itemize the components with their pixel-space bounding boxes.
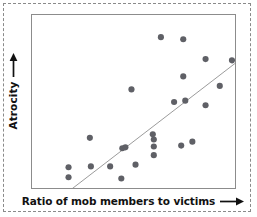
data-point: [151, 152, 157, 158]
x-axis-label-text: Ratio of mob members to victims: [22, 195, 215, 207]
data-point: [202, 102, 208, 108]
data-point: [88, 163, 94, 169]
data-point: [217, 83, 223, 89]
y-axis-label-text: Atrocity: [7, 81, 19, 129]
x-axis-label: Ratio of mob members to victims: [31, 190, 236, 212]
data-point: [180, 73, 186, 79]
data-point: [151, 143, 157, 149]
up-arrow-icon: [8, 52, 19, 78]
data-point: [65, 164, 71, 170]
data-point: [132, 162, 138, 168]
data-point: [180, 36, 186, 42]
data-point: [65, 174, 71, 180]
data-point: [150, 131, 156, 137]
plot-area: [31, 14, 236, 189]
data-point: [158, 34, 164, 40]
right-arrow-icon: [219, 196, 245, 207]
data-points-group: [65, 34, 235, 181]
data-point: [182, 98, 188, 104]
trendline: [69, 63, 235, 188]
data-point: [118, 175, 124, 181]
scatter-chart-figure: Atrocity Ratio of mob members to victims: [0, 0, 257, 217]
data-point: [87, 135, 93, 141]
data-point: [107, 163, 113, 169]
trendline-group: [69, 63, 235, 188]
data-point: [202, 56, 208, 62]
data-point: [229, 57, 235, 63]
data-point: [171, 99, 177, 105]
y-axis-label: Atrocity: [0, 31, 26, 151]
data-point: [178, 143, 184, 149]
data-point: [151, 136, 157, 142]
data-point: [128, 86, 134, 92]
data-point: [122, 144, 128, 150]
data-point: [189, 139, 195, 145]
scatter-plot-svg: [32, 15, 235, 188]
